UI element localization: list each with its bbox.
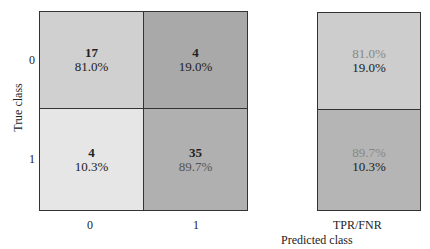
- confusion-matrix: 17 81.0% 4 19.0% 4 10.3% 35 89.7%: [39, 11, 248, 211]
- cell-percent: 81.0%: [75, 60, 109, 74]
- cell-percent: 10.3%: [75, 160, 109, 174]
- y-tick-0: 0: [29, 53, 35, 68]
- cell-count: 4: [192, 46, 199, 60]
- tpr-fnr-panel: 81.0% 19.0% 89.7% 10.3%: [317, 12, 421, 211]
- y-tick-1: 1: [29, 152, 35, 167]
- side-row-1: 89.7% 10.3%: [318, 110, 420, 210]
- side-panel-label: TPR/FNR: [333, 218, 382, 233]
- cell-true1-pred0: 4 10.3%: [40, 109, 144, 210]
- y-axis-label: True class: [11, 68, 26, 148]
- tpr-value: 89.7%: [352, 146, 386, 160]
- cell-true1-pred1: 35 89.7%: [144, 109, 247, 210]
- x-tick-0: 0: [87, 218, 93, 233]
- fnr-value: 10.3%: [352, 160, 386, 174]
- cell-count: 35: [189, 146, 202, 160]
- side-row-0: 81.0% 19.0%: [318, 13, 420, 110]
- cell-count: 4: [88, 146, 95, 160]
- cell-percent: 89.7%: [179, 160, 213, 174]
- cell-true0-pred0: 17 81.0%: [40, 12, 144, 109]
- x-tick-1: 1: [193, 218, 199, 233]
- fnr-value: 19.0%: [352, 61, 386, 75]
- x-axis-label: Predicted class: [281, 233, 353, 248]
- cell-true0-pred1: 4 19.0%: [144, 12, 247, 109]
- cell-percent: 19.0%: [179, 60, 213, 74]
- cell-count: 17: [85, 46, 98, 60]
- tpr-value: 81.0%: [352, 47, 386, 61]
